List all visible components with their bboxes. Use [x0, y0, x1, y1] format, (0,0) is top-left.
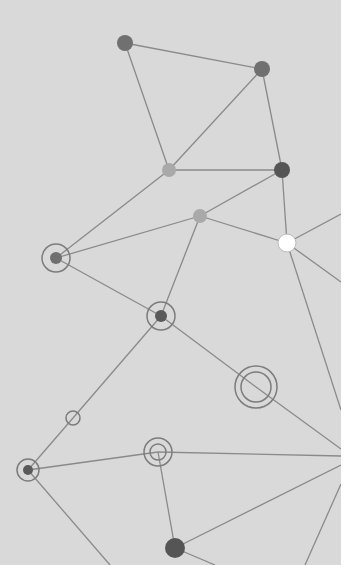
graph-edges — [28, 43, 341, 565]
graph-edge-line — [282, 170, 287, 243]
graph-edge-line — [256, 387, 341, 449]
graph-node-filled-icon — [254, 61, 270, 77]
graph-edge-line — [28, 452, 158, 470]
graph-edge-line — [125, 43, 262, 69]
graph-edge-line — [200, 216, 287, 243]
network-graphic-panel — [0, 0, 341, 565]
graph-edge-line — [56, 216, 200, 258]
graph-edge-line — [175, 465, 341, 548]
graph-nodes — [17, 35, 296, 558]
network-graph-illustration — [0, 0, 341, 565]
graph-node-ring-dot-icon — [42, 244, 70, 272]
graph-edge-line — [169, 69, 262, 170]
graph-edge-line — [56, 258, 161, 316]
graph-node-filled-icon — [162, 163, 176, 177]
graph-edge-line — [161, 316, 256, 387]
graph-node-filled-icon — [193, 209, 207, 223]
graph-edge-line — [287, 243, 341, 282]
graph-node-filled-icon — [278, 234, 296, 252]
graph-node-filled-icon — [165, 538, 185, 558]
graph-edge-line — [287, 243, 341, 410]
graph-edge-line — [158, 452, 341, 456]
graph-edge-line — [200, 170, 282, 216]
graph-edge-line — [73, 316, 161, 418]
graph-edge-line — [28, 470, 110, 565]
graph-node-filled-icon — [274, 162, 290, 178]
graph-edge-line — [125, 43, 169, 170]
graph-node-ring-dot-icon — [147, 302, 175, 330]
graph-node-ring-dot-icon — [17, 459, 39, 481]
graph-edge-line — [56, 170, 169, 258]
graph-edge-line — [305, 484, 341, 565]
graph-node-filled-icon — [117, 35, 133, 51]
graph-edge-line — [262, 69, 282, 170]
graph-edge-line — [161, 216, 200, 316]
